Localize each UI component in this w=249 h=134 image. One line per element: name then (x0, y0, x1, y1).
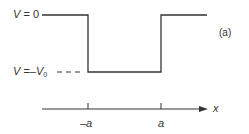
tick-label-minus-a: –a (80, 118, 92, 129)
x-axis-arrowhead-icon (199, 106, 208, 112)
x-axis-label: x (213, 103, 219, 114)
label-equals-minus: =– (20, 65, 36, 77)
potential-curve (42, 15, 207, 72)
label-v0-subscript: 0 (43, 71, 47, 78)
label-zero-value: 0 (33, 8, 39, 20)
label-equals: = (20, 8, 33, 20)
label-v-minus-v0: V =–V0 (13, 66, 47, 78)
potential-well-diagram: V = 0 V =–V0 (a) –a a x (0, 0, 249, 134)
tick-label-plus-a: a (158, 118, 164, 129)
label-v-zero: V = 0 (13, 9, 39, 20)
panel-label: (a) (219, 28, 231, 38)
